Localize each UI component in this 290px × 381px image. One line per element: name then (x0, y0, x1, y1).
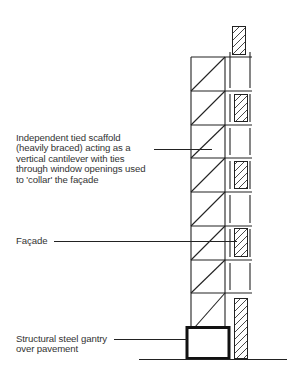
wall-block (235, 229, 248, 257)
steel-gantry (187, 328, 229, 359)
facade-label: Façade (16, 236, 47, 246)
wall-block (233, 27, 246, 55)
wall-block (235, 162, 248, 189)
scaffold-diagram (0, 0, 290, 381)
wall-block (235, 95, 248, 122)
wall-block (235, 299, 248, 359)
gantry-label: Structural steel gantry over pavement (16, 334, 107, 355)
scaffold-label: Independent tied scaffold (heavily brace… (16, 133, 145, 185)
